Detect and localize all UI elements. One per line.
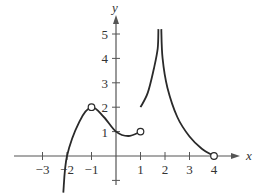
open-point-marker	[211, 153, 218, 160]
x-tick-label: −3	[36, 162, 50, 177]
curve-piece-3	[161, 29, 214, 156]
curve-piece-1	[63, 107, 140, 192]
y-axis-arrow-icon	[113, 15, 119, 24]
x-axis-arrow-icon	[231, 153, 240, 159]
x-tick-label: 2	[162, 162, 169, 177]
y-axis-label: y	[110, 0, 118, 15]
x-tick-label: −2	[60, 162, 74, 177]
x-tick-label: 4	[211, 162, 218, 177]
x-tick-label: −1	[85, 162, 99, 177]
curve-piece-2	[141, 29, 159, 107]
x-tick-label: 3	[186, 162, 193, 177]
function-graph: −3−2−1123412345xy	[0, 0, 255, 195]
x-axis-label: x	[245, 148, 252, 163]
y-tick-label: 2	[102, 100, 109, 115]
open-point-marker	[137, 128, 144, 135]
axes	[14, 15, 240, 185]
y-tick-label: 1	[102, 125, 109, 140]
y-tick-label: 3	[102, 76, 109, 91]
y-tick-label: 5	[102, 27, 109, 42]
x-tick-label: 1	[137, 162, 144, 177]
y-tick-label: 4	[102, 51, 109, 66]
open-point-marker	[88, 104, 95, 111]
